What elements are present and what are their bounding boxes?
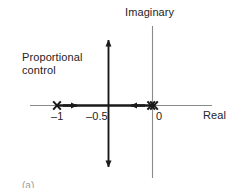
- real-axis-label: Real: [203, 109, 226, 122]
- x-tick-label-zero: 0: [156, 110, 162, 123]
- imaginary-axis-label: Imaginary: [125, 6, 174, 19]
- annotation-line-1: Proportional: [22, 51, 83, 63]
- x-tick-label-minus-one: –1: [51, 110, 63, 123]
- root-locus-plot: [0, 0, 244, 188]
- x-tick-label-minus-half: –0.5: [86, 110, 108, 123]
- proportional-control-annotation: Proportionalcontrol: [22, 51, 83, 76]
- annotation-line-2: control: [22, 64, 56, 76]
- root-locus-figure: Imaginary Real Proportionalcontrol –1 –0…: [0, 0, 244, 188]
- figure-caption: (a): [22, 180, 34, 188]
